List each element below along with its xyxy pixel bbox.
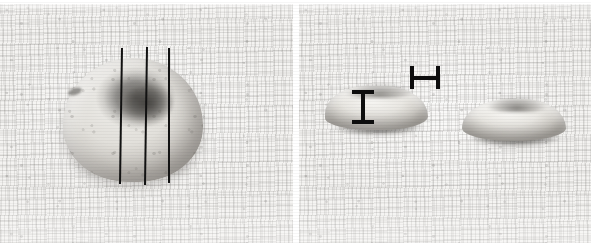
top-white-margin	[0, 0, 591, 4]
cut-half-right-cut-surface	[487, 96, 549, 112]
scalebar-vertical-cap-bottom	[352, 120, 374, 124]
scalebar-vertical	[352, 90, 374, 124]
panel-left	[0, 0, 294, 243]
panel-right	[299, 0, 591, 243]
scalebar-vertical-stem	[361, 93, 365, 121]
specimen-figure	[0, 0, 591, 243]
section-line-3	[168, 48, 170, 183]
scalebar-horizontal	[410, 66, 440, 89]
scalebar-horizontal-cap-right	[436, 66, 440, 89]
scalebar-horizontal-stem	[413, 76, 437, 80]
